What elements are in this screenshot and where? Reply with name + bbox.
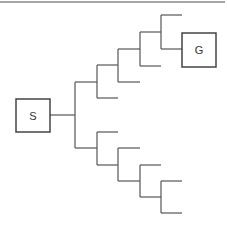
goal-node: G — [182, 33, 216, 67]
goal-node-label: G — [195, 44, 204, 56]
search-tree-diagram: S G — [0, 0, 227, 227]
start-node: S — [16, 99, 50, 132]
tree-edges — [50, 15, 182, 213]
start-node-label: S — [29, 110, 36, 122]
